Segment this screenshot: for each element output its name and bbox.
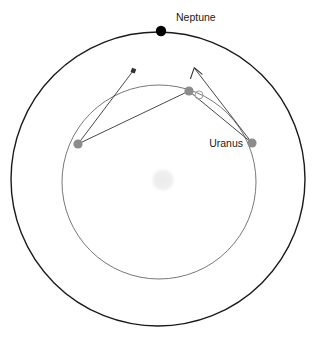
- uranus-body-right: [247, 138, 256, 147]
- perturbation-line-left-to-top: [78, 91, 189, 144]
- perturbation-vector-right: [195, 69, 252, 143]
- orbital-diagram: Neptune Uranus: [0, 0, 322, 343]
- uranus-body-top: [184, 86, 193, 95]
- neptune-label: Neptune: [176, 11, 216, 23]
- perturbation-vector-right-head: [191, 68, 203, 79]
- sun-icon: [149, 166, 177, 194]
- uranus-label: Uranus: [209, 137, 243, 149]
- uranus-body-left: [73, 139, 82, 148]
- perturbation-line-right-to-top: [190, 92, 252, 143]
- perturbation-vector-left: [78, 71, 133, 144]
- neptune-body: [156, 26, 166, 36]
- orbit-canvas: Neptune Uranus: [0, 0, 322, 343]
